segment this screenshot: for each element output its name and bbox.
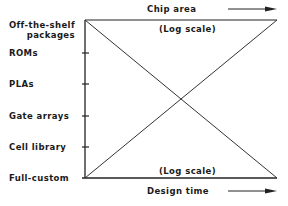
label-plas: PLAs bbox=[9, 79, 34, 89]
design-time-arrowhead bbox=[265, 189, 277, 194]
design-time-title: Design time bbox=[147, 186, 209, 196]
label-off-the-shelf-line2: packages bbox=[0, 30, 75, 40]
chip-area-scale-note: (Log scale) bbox=[159, 24, 216, 34]
chip-area-arrowhead bbox=[265, 7, 277, 12]
chip-area-title: Chip area bbox=[147, 4, 196, 14]
design-time-scale-note: (Log scale) bbox=[159, 166, 216, 176]
label-full-custom: Full-custom bbox=[9, 173, 69, 183]
label-off-the-shelf-line1: Off-the-shelf bbox=[0, 20, 75, 30]
label-gate-arrays: Gate arrays bbox=[9, 111, 69, 121]
label-cell-library: Cell library bbox=[9, 142, 66, 152]
label-roms: ROMs bbox=[9, 48, 38, 58]
label-off-the-shelf: Off-the-shelf packages bbox=[0, 20, 75, 40]
